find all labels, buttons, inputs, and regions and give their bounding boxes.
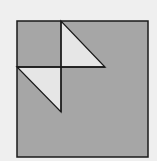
shaded-square: [17, 21, 148, 157]
geometric-figure: [0, 0, 157, 161]
